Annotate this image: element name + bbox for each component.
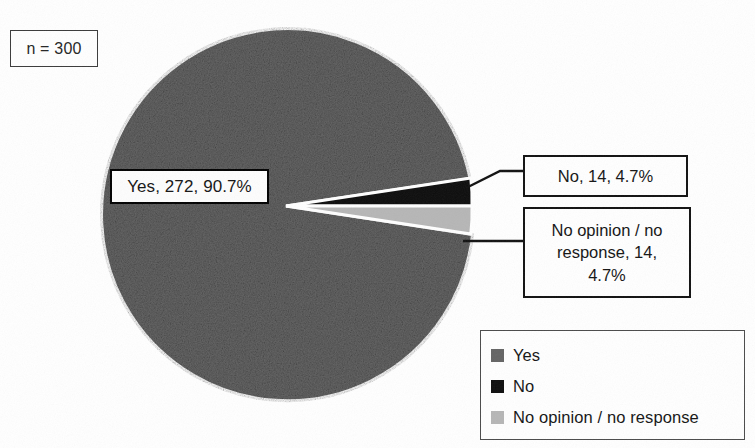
chart-legend: Yes No No opinion / no response xyxy=(480,330,745,440)
legend-item-no[interactable]: No xyxy=(491,371,744,402)
legend-label-no-opinion: No opinion / no response xyxy=(513,408,699,427)
legend-swatch-no xyxy=(491,380,504,393)
legend-swatch-yes xyxy=(491,349,504,362)
data-label-yes: Yes, 272, 90.7% xyxy=(110,169,269,204)
legend-label-yes: Yes xyxy=(513,346,540,365)
legend-item-no-opinion[interactable]: No opinion / no response xyxy=(491,402,744,433)
data-label-no-opinion-line3: 4.7% xyxy=(588,266,626,284)
data-label-no-opinion-line2: response, 14, xyxy=(557,243,657,261)
legend-label-no: No xyxy=(513,377,534,396)
data-label-no-opinion: No opinion / no response, 14, 4.7% xyxy=(523,207,691,298)
legend-swatch-no-opinion xyxy=(491,411,504,424)
legend-item-yes[interactable]: Yes xyxy=(491,340,744,371)
data-label-no: No, 14, 4.7% xyxy=(523,155,688,197)
chart-canvas: n = 300 Yes, 272, 90.7% No, 14, 4.7% No … xyxy=(0,0,755,448)
leader-line-no xyxy=(466,171,523,188)
data-label-no-opinion-line1: No opinion / no xyxy=(552,221,663,239)
